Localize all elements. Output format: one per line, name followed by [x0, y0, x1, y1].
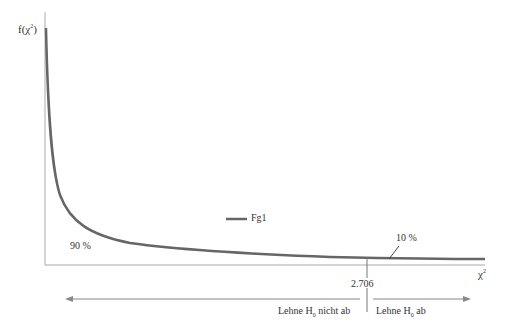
reject-region-label: Lehne H0 ab	[376, 305, 426, 318]
chart-canvas	[0, 0, 509, 335]
x-axis-label: χ2	[478, 268, 486, 280]
accept-arrowhead	[65, 296, 73, 302]
y-axis-label: f(χ2)	[18, 23, 37, 35]
left-area-label: 90 %	[70, 240, 91, 251]
legend-label: Fg1	[251, 212, 267, 223]
right-area-label: 10 %	[396, 232, 417, 243]
accept-region-label: Lehne H0 nicht ab	[278, 305, 350, 318]
density-curve	[46, 28, 485, 259]
reject-arrowhead	[463, 296, 471, 302]
critical-value-label: 2.706	[351, 278, 374, 289]
